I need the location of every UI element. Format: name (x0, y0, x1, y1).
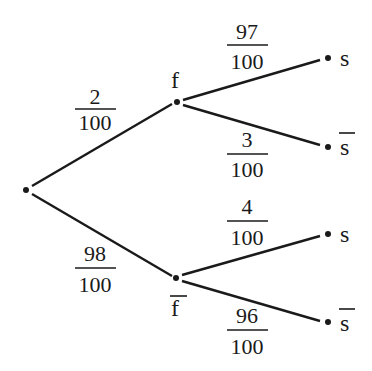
node-s-bottom-dot (325, 231, 331, 237)
denominator: 100 (231, 334, 264, 359)
node-sbar-top-dot (325, 144, 331, 150)
numerator: 4 (242, 194, 253, 219)
denominator: 100 (231, 157, 264, 182)
tree-nodes (23, 55, 331, 325)
denominator: 100 (79, 110, 112, 135)
node-root-dot (23, 187, 29, 193)
fraction-f-s: 97 100 (227, 19, 268, 74)
node-sbar-bottom-dot (325, 319, 331, 325)
fraction-root-f: 2 100 (75, 84, 116, 135)
denominator: 100 (231, 225, 264, 250)
tree-edges (32, 60, 320, 321)
node-s-top-dot (325, 55, 331, 61)
node-label-s-top: s (340, 45, 349, 71)
numerator: 97 (236, 19, 258, 44)
probability-tree: f f s s s s 2 100 98 100 97 100 3 100 4 … (0, 0, 372, 371)
fraction-f-sbar: 3 100 (227, 127, 268, 182)
fraction-root-fbar: 98 100 (75, 241, 116, 297)
node-f-dot (174, 99, 180, 105)
fraction-fbar-sbar: 96 100 (227, 303, 268, 359)
denominator: 100 (79, 272, 112, 297)
node-fbar-dot (173, 275, 179, 281)
node-label-s-bottom: s (340, 221, 349, 247)
node-label-fbar: f (171, 295, 179, 321)
fraction-fbar-s: 4 100 (227, 194, 268, 250)
numerator: 2 (90, 84, 101, 109)
numerator: 96 (236, 303, 258, 328)
denominator: 100 (231, 49, 264, 74)
numerator: 3 (242, 127, 253, 152)
numerator: 98 (84, 241, 106, 266)
node-label-f: f (171, 67, 179, 93)
node-label-sbar-top: s (340, 134, 349, 160)
node-label-sbar-bottom: s (340, 310, 349, 336)
